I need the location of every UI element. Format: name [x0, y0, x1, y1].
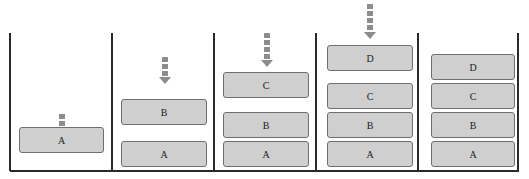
stack-box-d: D: [327, 45, 413, 71]
stack-box-c: C: [431, 83, 515, 109]
stack-box-d: D: [431, 54, 515, 80]
stack-box-a: A: [431, 141, 515, 167]
stack-box-b: B: [223, 112, 309, 138]
stack-box-a: A: [19, 127, 104, 153]
stack-box-c: C: [223, 72, 309, 98]
stack-box-b: B: [431, 112, 515, 138]
down-arrow-icon: [159, 57, 171, 87]
stack-box-b: B: [327, 112, 413, 138]
divider-line: [213, 33, 215, 171]
baseline: [10, 170, 519, 172]
stack-box-b: B: [121, 99, 207, 125]
divider-line: [517, 33, 519, 171]
stack-box-c: C: [327, 83, 413, 109]
stack-box-a: A: [121, 141, 207, 167]
stack-box-a: A: [223, 141, 309, 167]
down-arrow-icon: [261, 33, 273, 71]
down-arrow-icon: [364, 4, 376, 42]
divider-line: [111, 33, 113, 171]
stack-diagram: A B A C B A D: [0, 0, 529, 179]
divider-line: [417, 33, 419, 171]
divider-line: [9, 33, 11, 171]
stack-box-a: A: [327, 141, 413, 167]
divider-line: [315, 33, 317, 171]
